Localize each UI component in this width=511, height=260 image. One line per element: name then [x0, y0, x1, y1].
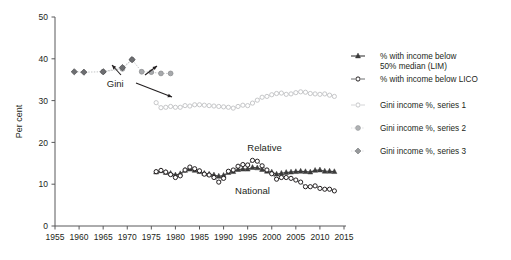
- data-point: [303, 185, 307, 189]
- data-point: [197, 169, 201, 173]
- data-point: [202, 103, 206, 107]
- data-point: [332, 189, 336, 193]
- annotation-label-national: National: [235, 185, 270, 196]
- data-point: [308, 185, 312, 189]
- legend-item-1[interactable]: % with income below LICO: [351, 75, 478, 84]
- data-point: [284, 92, 288, 96]
- data-point: [265, 168, 269, 172]
- data-point: [159, 168, 163, 172]
- y-tick-label: 20: [39, 138, 49, 148]
- x-tick-label: 1975: [142, 232, 161, 242]
- y-tick-label: 40: [39, 54, 49, 64]
- x-tick-label: 2010: [310, 232, 329, 242]
- data-point: [250, 158, 254, 162]
- data-point: [71, 69, 77, 75]
- data-point: [212, 175, 216, 179]
- annotation-label-relative: Relative: [247, 142, 281, 153]
- x-tick-label: 1960: [70, 232, 89, 242]
- axis-lines: [55, 17, 346, 226]
- data-point: [164, 105, 168, 109]
- data-point: [226, 169, 230, 173]
- annotation-arrowhead: [167, 94, 172, 97]
- series-2: [154, 90, 336, 111]
- data-point: [323, 92, 327, 96]
- data-point: [169, 172, 173, 176]
- data-point: [193, 103, 197, 107]
- data-point: [168, 71, 173, 76]
- data-point: [169, 104, 173, 108]
- data-point: [236, 164, 240, 168]
- legend-item-0[interactable]: % with income below50% median (LIM): [351, 52, 457, 71]
- data-point: [294, 91, 298, 95]
- data-point: [221, 176, 225, 180]
- x-tick-label: 1965: [94, 232, 113, 242]
- y-tick-label: 10: [39, 179, 49, 189]
- legend-label: Gini income %, series 1: [380, 101, 466, 110]
- data-point: [260, 164, 264, 168]
- data-point: [193, 167, 197, 171]
- x-tick-label: 1995: [238, 232, 257, 242]
- data-point: [270, 172, 274, 176]
- data-point: [100, 69, 106, 75]
- chart-svg: 0102030405019551960196519701975198019851…: [0, 0, 511, 260]
- data-point: [236, 104, 240, 108]
- data-point: [183, 104, 187, 108]
- data-point: [164, 170, 168, 174]
- data-point: [327, 187, 331, 191]
- data-point: [279, 91, 283, 95]
- legend-label: % with income below LICO: [380, 75, 478, 84]
- data-point: [217, 180, 221, 184]
- data-point: [317, 167, 322, 172]
- data-point: [188, 165, 192, 169]
- legend-marker-diamond: [355, 148, 361, 154]
- y-axis-title: Per cent: [14, 104, 24, 138]
- data-point: [197, 103, 201, 107]
- data-point: [289, 176, 293, 180]
- legend-label: % with income below: [380, 52, 457, 61]
- data-point: [231, 106, 235, 110]
- y-tick-label: 0: [43, 221, 48, 231]
- legend-marker-circle: [356, 77, 360, 81]
- data-point: [246, 104, 250, 108]
- data-point: [284, 175, 288, 179]
- data-point: [183, 168, 187, 172]
- data-point: [217, 104, 221, 108]
- annotation-label-gini: Gini: [107, 78, 124, 89]
- annotation-arrow: [136, 83, 172, 97]
- data-point: [129, 57, 135, 63]
- data-point: [81, 69, 87, 75]
- x-tick-label: 1980: [166, 232, 185, 242]
- data-point: [299, 180, 303, 184]
- legend-marker-circle-light: [356, 103, 360, 107]
- series-3: [101, 57, 173, 76]
- y-tick-label: 50: [39, 12, 49, 22]
- data-point: [274, 91, 278, 95]
- data-point: [159, 106, 163, 110]
- data-point: [159, 71, 164, 76]
- data-point: [274, 177, 278, 181]
- data-point: [294, 178, 298, 182]
- data-point: [139, 69, 144, 74]
- data-point: [154, 170, 158, 174]
- data-point: [318, 92, 322, 96]
- data-point: [241, 162, 245, 166]
- data-point: [226, 105, 230, 109]
- data-point: [250, 101, 254, 105]
- x-tick-label: 1955: [46, 232, 65, 242]
- data-point: [303, 90, 307, 94]
- data-point: [255, 98, 259, 102]
- legend-item-3[interactable]: Gini income %, series 2: [351, 124, 466, 133]
- legend-group: % with income below50% median (LIM)% wit…: [351, 52, 478, 156]
- x-tick-label: 1990: [214, 232, 233, 242]
- data-point: [327, 93, 331, 97]
- data-point: [279, 175, 283, 179]
- legend-item-2[interactable]: Gini income %, series 1: [351, 101, 466, 110]
- legend-label-line2: 50% median (LIM): [380, 62, 447, 71]
- data-point: [207, 173, 211, 177]
- x-tick-label: 2015: [335, 232, 354, 242]
- x-tick-label: 1970: [118, 232, 137, 242]
- y-tick-label: 30: [39, 96, 49, 106]
- legend-item-4[interactable]: Gini income %, series 3: [351, 147, 466, 156]
- data-point: [178, 105, 182, 109]
- data-point: [265, 94, 269, 98]
